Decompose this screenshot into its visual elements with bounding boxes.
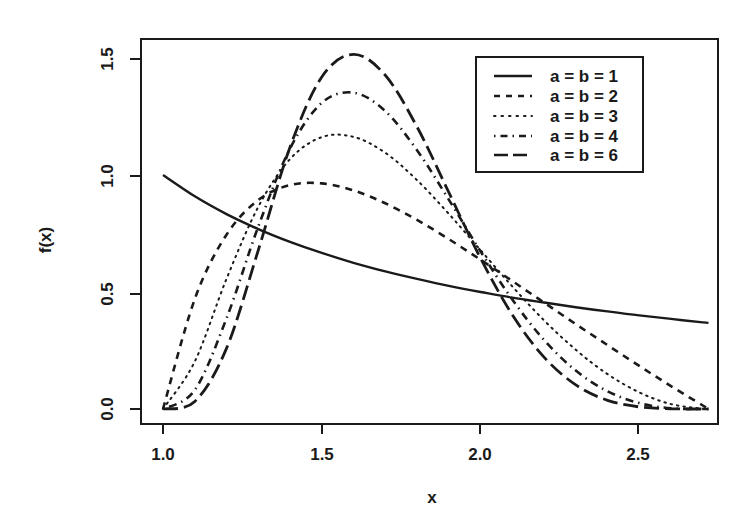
x-axis: 1.0 1.5 2.0 2.5 [151,424,650,464]
curve-solid [163,175,709,323]
y-tick-label: 0.0 [98,397,117,421]
legend-label: a = b = 4 [550,127,619,146]
legend-label: a = b = 1 [550,67,618,86]
x-axis-title: x [427,488,437,507]
chart-canvas: 0.0 0.5 1.0 1.5 1.0 1.5 2.0 2.5 x f(x) a… [0,0,756,529]
x-tick-label: 1.0 [151,445,175,464]
x-tick-label: 1.5 [310,445,334,464]
legend-label: a = b = 6 [550,146,618,165]
y-axis-title: f(x) [36,227,55,253]
legend-label: a = b = 3 [550,107,618,126]
y-tick-label: 0.5 [98,282,117,306]
legend-label: a = b = 2 [550,87,618,106]
curve-dotted [163,135,709,410]
y-tick-label: 1.5 [98,47,117,71]
x-tick-label: 2.5 [626,445,650,464]
x-tick-label: 2.0 [468,445,492,464]
y-tick-label: 1.0 [98,164,117,188]
legend: a = b = 1 a = b = 2 a = b = 3 a = b = 4 … [476,57,643,172]
y-axis: 0.0 0.5 1.0 1.5 [98,47,141,421]
